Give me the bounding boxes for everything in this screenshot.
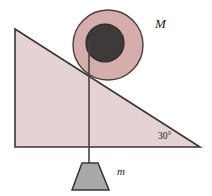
incline-angle-label: 30°: [158, 131, 172, 141]
hanging-mass-label: m: [117, 165, 125, 177]
pulley-hub: [86, 24, 124, 62]
pulley-mass-label: M: [154, 16, 167, 31]
diagram-canvas: M m 30°: [0, 0, 212, 196]
physics-diagram-figure: M m 30°: [0, 0, 212, 196]
